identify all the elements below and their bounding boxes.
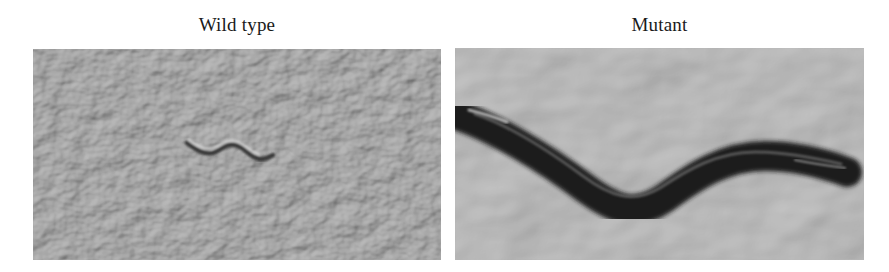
wild-type-micrograph: [33, 49, 441, 260]
mutant-image: [455, 48, 864, 260]
mutant-micrograph: [455, 48, 864, 260]
panel-label-wild-type: Wild type: [33, 14, 441, 36]
figure-comparison: Wild type Mutant: [0, 0, 889, 272]
wild-type-image: [33, 49, 441, 260]
panel-label-mutant: Mutant: [455, 14, 864, 36]
